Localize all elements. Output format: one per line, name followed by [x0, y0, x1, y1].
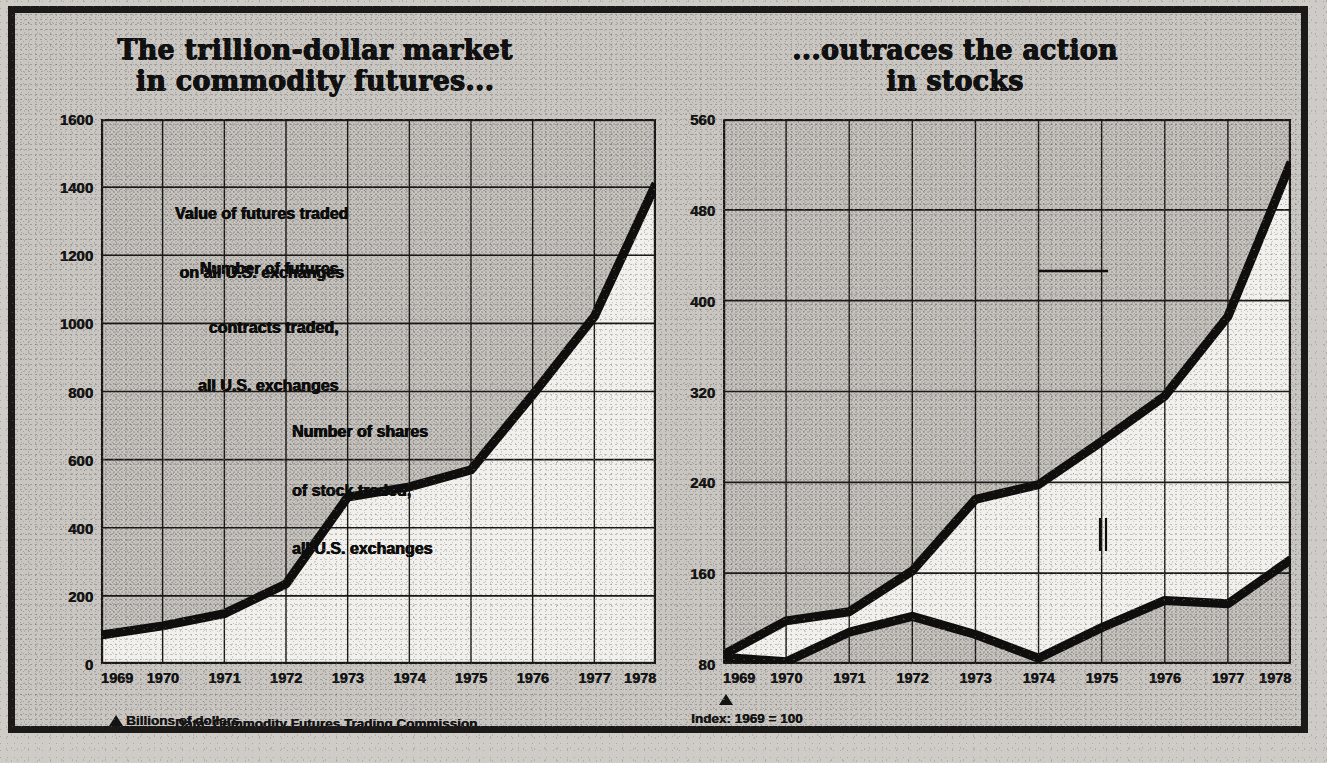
right-chart-title: ...outraces the action in stocks	[715, 35, 1195, 96]
x-tick-label: 1975	[455, 670, 487, 686]
y-tick-label: 400	[68, 519, 93, 536]
x-tick-label: 1976	[517, 670, 549, 686]
triangle-marker-icon-right	[719, 694, 733, 705]
x-tick-label: 1971	[208, 670, 240, 686]
x-tick-label: 1973	[332, 670, 364, 686]
x-tick-label: 1976	[1149, 670, 1181, 686]
shares-annotation-line-2: of stock traded,	[292, 481, 433, 501]
left-chart-title: The trillion-dollar market in commodity …	[35, 35, 595, 96]
x-tick-label: 1973	[959, 670, 991, 686]
left-title-line-1: The trillion-dollar market	[35, 35, 595, 66]
right-source-note: Data: Futures Industry Assn., Securities…	[850, 697, 1127, 726]
x-tick-label: 1969	[723, 670, 755, 686]
x-tick-label: 1977	[578, 670, 610, 686]
x-tick-label: 1972	[896, 670, 928, 686]
right-chart-shares-annotation: Number of shares of stock traded, all U.…	[292, 383, 433, 598]
x-tick-label: 1978	[1259, 670, 1291, 686]
right-chart: 80160240320400480560 1969197019711972197…	[665, 113, 1295, 678]
x-tick-label: 1974	[393, 670, 425, 686]
x-tick-label: 1972	[270, 670, 302, 686]
left-title-line-2: in commodity futures...	[35, 66, 595, 97]
triangle-marker-icon	[109, 715, 123, 726]
right-title-line-2: in stocks	[715, 66, 1195, 97]
right-y-axis-labels: 80160240320400480560	[665, 119, 715, 664]
right-plot-area	[723, 119, 1291, 664]
x-tick-label: 1974	[1022, 670, 1054, 686]
y-tick-label: 80	[698, 656, 715, 673]
x-tick-label: 1975	[1086, 670, 1118, 686]
y-tick-label: 240	[690, 474, 715, 491]
y-tick-label: 1600	[60, 111, 93, 128]
shares-annotation-line-3: all U.S. exchanges	[292, 539, 433, 559]
y-tick-label: 1400	[60, 179, 93, 196]
y-tick-label: 320	[690, 383, 715, 400]
right-title-line-1: ...outraces the action	[715, 35, 1195, 66]
left-y-axis-labels: 02004006008001000120014001600	[39, 119, 93, 664]
y-tick-label: 160	[690, 565, 715, 582]
left-source-note: Data: Commodity Futures Trading Commissi…	[175, 715, 477, 726]
y-tick-label: 200	[68, 587, 93, 604]
newsprint-page: The trillion-dollar market in commodity …	[0, 0, 1327, 763]
x-tick-label: 1978	[624, 670, 656, 686]
x-tick-label: 1977	[1212, 670, 1244, 686]
shares-annotation-line-1: Number of shares	[292, 422, 433, 442]
figure-frame: The trillion-dollar market in commodity …	[8, 6, 1308, 733]
right-unit-note: Index: 1969 = 100	[691, 710, 802, 726]
futures-annotation-line-2: contracts traded,	[198, 318, 339, 338]
y-tick-label: 0	[85, 656, 93, 673]
futures-annotation-line-1: Number of futures	[198, 259, 339, 279]
y-tick-label: 400	[690, 292, 715, 309]
y-tick-label: 560	[690, 111, 715, 128]
y-tick-label: 800	[68, 383, 93, 400]
y-tick-label: 1000	[60, 315, 93, 332]
x-tick-label: 1969	[101, 670, 133, 686]
x-tick-label: 1970	[147, 670, 179, 686]
x-tick-label: 1970	[770, 670, 802, 686]
y-tick-label: 1200	[60, 247, 93, 264]
y-tick-label: 480	[690, 201, 715, 218]
y-tick-label: 600	[68, 451, 93, 468]
x-tick-label: 1971	[833, 670, 865, 686]
